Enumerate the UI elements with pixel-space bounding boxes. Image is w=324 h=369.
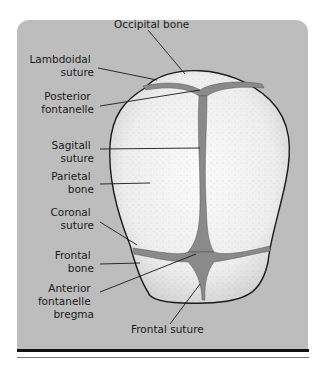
leader-occipital-bone xyxy=(148,30,185,74)
label-parietal-bone: Parietal bone xyxy=(51,170,94,195)
label-frontal-suture: Frontal suture xyxy=(131,323,204,335)
label-lambdoidal-suture: Lambdoidal suture xyxy=(29,53,94,78)
label-posterior-fontanelle: Posterior fontanelle xyxy=(41,90,94,115)
skull-diagram: Occipital bone Lambdoidal suture Posteri… xyxy=(0,0,324,369)
leader-lambdoidal-suture xyxy=(98,68,157,80)
label-anterior-fontanelle: Anterior fontanelle bregma xyxy=(38,282,94,320)
label-sagittal-suture: Sagitall suture xyxy=(52,139,94,164)
leader-frontal-bone xyxy=(100,263,140,264)
label-frontal-bone: Frontal bone xyxy=(55,249,94,274)
bottom-rule-thin xyxy=(17,357,309,358)
label-occipital-bone: Occipital bone xyxy=(114,18,189,30)
bottom-rule-thick xyxy=(17,349,309,352)
label-coronal-suture: Coronal suture xyxy=(50,206,94,231)
